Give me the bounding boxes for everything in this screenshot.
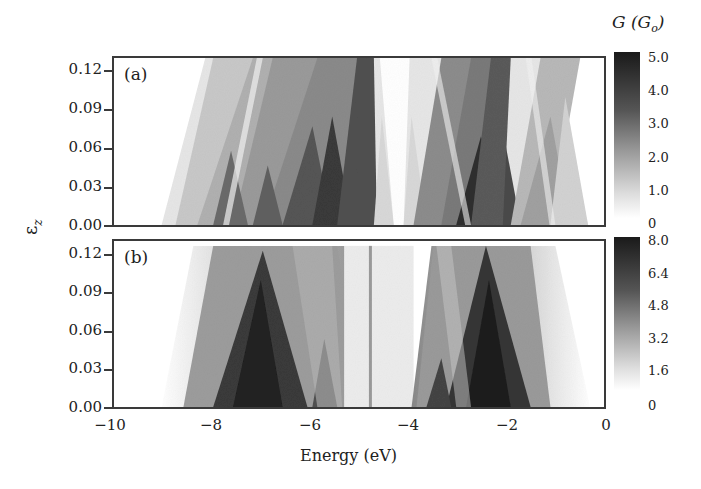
colorbar-title-sub: o xyxy=(651,22,658,35)
ytick-a-0.09: 0.09 xyxy=(42,99,102,117)
cbar-b-tick: 1.6 xyxy=(648,363,669,378)
y-axis-title: εz xyxy=(20,219,45,235)
heatmap-b-image xyxy=(114,241,604,407)
panel-a-label: (a) xyxy=(124,64,147,84)
xtick--8: −8 xyxy=(191,416,231,434)
cbar-a-tick: 1.0 xyxy=(648,183,669,198)
x-axis-title: Energy (eV) xyxy=(300,446,397,465)
xtick-0: 0 xyxy=(586,416,626,434)
cbar-a-tick: 5.0 xyxy=(648,50,669,65)
ytick-a-0.12: 0.12 xyxy=(42,60,102,78)
cbar-b-tick: 3.2 xyxy=(648,331,669,346)
ytick-a-0.03: 0.03 xyxy=(42,177,102,195)
ytick-mark xyxy=(104,292,112,294)
ytick-mark xyxy=(104,70,112,72)
ytick-b-0.09: 0.09 xyxy=(42,282,102,300)
xtick--10: −10 xyxy=(90,416,130,434)
ytick-mark xyxy=(104,187,112,189)
y-axis-label-sub: z xyxy=(31,219,45,225)
cbar-a-tick: 0 xyxy=(648,216,656,231)
ytick-a-0.00: 0.00 xyxy=(42,216,102,234)
colorbar-b xyxy=(614,237,640,390)
heatmap-a-image xyxy=(114,58,604,225)
colorbar-title-end: ) xyxy=(658,12,665,32)
ytick-mark xyxy=(104,407,112,409)
colorbar-title: G (Go) xyxy=(612,12,664,35)
cbar-a-tick: 2.0 xyxy=(648,150,669,165)
colorbar-title-main: G (G xyxy=(612,12,651,32)
heatmap-panel-b: (b) xyxy=(112,239,606,409)
xtick--6: −6 xyxy=(290,416,330,434)
ytick-mark xyxy=(104,225,112,227)
ytick-b-0.03: 0.03 xyxy=(42,359,102,377)
cbar-a-tick: 4.0 xyxy=(648,83,669,98)
ytick-mark xyxy=(104,331,112,333)
heatmap-panel-a: (a) xyxy=(112,56,606,227)
ytick-b-0.12: 0.12 xyxy=(42,244,102,262)
cbar-b-tick: 8.0 xyxy=(648,233,669,248)
colorbar-a xyxy=(614,52,640,218)
ytick-mark xyxy=(104,148,112,150)
ytick-a-0.06: 0.06 xyxy=(42,138,102,156)
y-axis-label-main: ε xyxy=(20,226,41,235)
panel-b-label: (b) xyxy=(124,247,148,267)
cbar-b-tick: 6.4 xyxy=(648,266,669,281)
cbar-b-tick: 4.8 xyxy=(648,298,669,313)
ytick-mark xyxy=(104,254,112,256)
ytick-mark xyxy=(104,109,112,111)
xtick--2: −2 xyxy=(487,416,527,434)
ytick-mark xyxy=(104,369,112,371)
ytick-b-0.06: 0.06 xyxy=(42,321,102,339)
cbar-a-tick: 3.0 xyxy=(648,116,669,131)
cbar-b-tick: 0 xyxy=(648,398,656,413)
ytick-b-0.00: 0.00 xyxy=(42,398,102,416)
xtick--4: −4 xyxy=(388,416,428,434)
